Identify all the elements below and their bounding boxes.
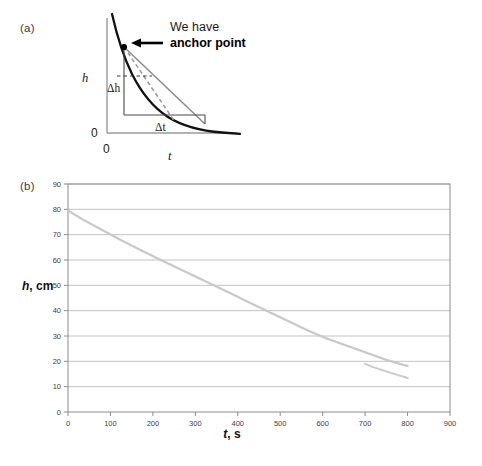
y-axis-title-symbol: h bbox=[22, 279, 29, 293]
delta-h-label: Δh bbox=[107, 82, 120, 94]
panel-a-y-axis-label: h bbox=[82, 71, 88, 85]
x-tick-label: 800 bbox=[401, 419, 414, 428]
anchor-point-dot bbox=[121, 44, 127, 50]
data-point bbox=[407, 365, 409, 367]
y-tick-label: 10 bbox=[53, 382, 61, 391]
x-tick-label: 300 bbox=[189, 419, 202, 428]
panel-a-x-axis-label: t bbox=[168, 149, 172, 163]
panel-a-diagram: (a) We have anchor point h t bbox=[0, 0, 482, 172]
x-axis-title: t, s bbox=[223, 427, 241, 441]
chart-frame bbox=[68, 184, 450, 412]
plot-area-border bbox=[68, 184, 450, 412]
x-tick-label: 200 bbox=[147, 419, 160, 428]
y-tick-label: 50 bbox=[53, 281, 61, 290]
data-series-points bbox=[67, 210, 408, 379]
panel-a-tangent-line bbox=[124, 47, 175, 122]
delta-t-label: Δt bbox=[155, 121, 166, 133]
y-tick-label: 90 bbox=[53, 180, 61, 189]
y-axis-title: h, cm bbox=[22, 279, 53, 293]
x-tick-label: 900 bbox=[444, 419, 457, 428]
panel-a-x-origin-label: 0 bbox=[103, 142, 110, 156]
data-point bbox=[407, 377, 409, 379]
panel-a-svg: We have anchor point h t 0 0 Δh Δt bbox=[0, 0, 482, 172]
chart-gridlines bbox=[68, 184, 450, 387]
y-tick-label: 40 bbox=[53, 306, 61, 315]
panel-a-y-origin-label: 0 bbox=[91, 126, 98, 140]
x-axis-ticks: 0100200300400500600700800900 bbox=[66, 412, 456, 428]
annotation-arrow-icon bbox=[131, 38, 163, 47]
panel-b-chart-svg: 0102030405060708090 01002003004005006007… bbox=[0, 172, 482, 466]
y-tick-label: 60 bbox=[53, 256, 61, 265]
annotation-line-1: We have bbox=[170, 20, 219, 34]
y-axis-title-unit: , cm bbox=[29, 279, 53, 293]
y-tick-label: 30 bbox=[53, 332, 61, 341]
panel-a-secant-line bbox=[124, 47, 205, 124]
x-tick-label: 0 bbox=[66, 419, 70, 428]
x-tick-label: 100 bbox=[104, 419, 117, 428]
x-axis-title-unit: , s bbox=[227, 427, 241, 441]
y-tick-label: 70 bbox=[53, 230, 61, 239]
y-tick-label: 0 bbox=[57, 408, 61, 417]
annotation-line-2: anchor point bbox=[170, 36, 247, 50]
x-tick-label: 500 bbox=[274, 419, 287, 428]
y-tick-label: 20 bbox=[53, 357, 61, 366]
x-tick-label: 700 bbox=[359, 419, 372, 428]
panel-b-chart: (b) 0102030405060708090 0100200300400500… bbox=[0, 172, 482, 466]
x-tick-label: 600 bbox=[316, 419, 329, 428]
y-axis-ticks: 0102030405060708090 bbox=[53, 180, 68, 417]
y-tick-label: 80 bbox=[53, 205, 61, 214]
